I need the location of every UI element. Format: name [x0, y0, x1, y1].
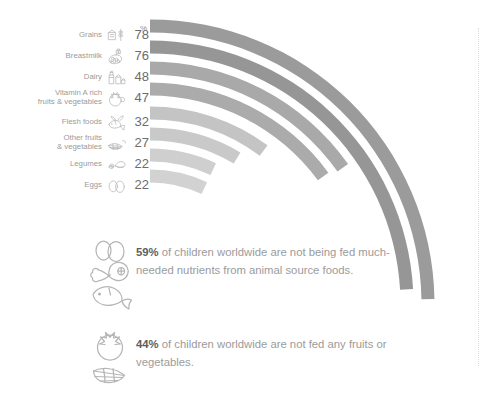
nutrition-infographic: % Grains78Breastmilk76Dairy48Vitamin A r…: [0, 0, 496, 401]
dairy-icon: [106, 68, 128, 86]
chart-row-label: Flesh foods: [8, 118, 106, 127]
chart-row-label: Other fruits & vegetables: [8, 134, 106, 151]
eggs-icon: [106, 176, 128, 194]
animal-source-foods-icon: [88, 238, 136, 310]
chart-row-label: Breastmilk: [8, 52, 106, 61]
chart-row-label: Eggs: [8, 181, 106, 190]
chart-row-value: 47: [128, 91, 150, 105]
vitamin-a-fruits-vegetables-icon: [106, 89, 128, 107]
chart-row: Breastmilk76: [8, 47, 150, 65]
chart-row: Grains78: [8, 26, 150, 44]
chart-row-value: 27: [128, 136, 150, 150]
other-fruits-vegetables-icon: [106, 134, 128, 152]
legumes-icon: [106, 155, 128, 173]
fact-highlight: 59%: [136, 246, 159, 258]
chart-row: Eggs22: [8, 176, 150, 194]
breastmilk-icon: [106, 47, 128, 65]
chart-row-value: 32: [128, 115, 150, 129]
fact-animal-source-foods: 59% of children worldwide are not being …: [88, 238, 418, 310]
chart-row-label: Legumes: [8, 160, 106, 169]
flesh-foods-icon: [106, 113, 128, 131]
fact-text: 59% of children worldwide are not being …: [136, 238, 418, 279]
chart-row: Vitamin A rich fruits & vegetables47: [8, 89, 150, 107]
fruits-vegetables-icon: [88, 330, 136, 386]
chart-row-label: Grains: [8, 31, 106, 40]
fact-fruits-vegetables: 44% of children worldwide are not fed an…: [88, 330, 418, 386]
chart-row: Flesh foods32: [8, 113, 150, 131]
arc-band: [150, 170, 207, 194]
chart-row-label: Vitamin A rich fruits & vegetables: [8, 89, 106, 106]
chart-row-value: 48: [128, 70, 150, 84]
grains-icon: [106, 26, 128, 44]
fact-body: of children worldwide are not fed any fr…: [136, 338, 387, 368]
chart-row-label: Dairy: [8, 73, 106, 82]
fact-body: of children worldwide are not being fed …: [136, 246, 390, 276]
chart-row: Other fruits & vegetables27: [8, 134, 150, 152]
chart-row: Dairy48: [8, 68, 150, 86]
chart-row: Legumes22: [8, 155, 150, 173]
chart-row-value: 78: [128, 28, 150, 42]
chart-row-value: 22: [128, 178, 150, 192]
fact-text: 44% of children worldwide are not fed an…: [136, 330, 418, 371]
chart-row-value: 22: [128, 157, 150, 171]
chart-row-value: 76: [128, 49, 150, 63]
fact-highlight: 44%: [136, 338, 159, 350]
